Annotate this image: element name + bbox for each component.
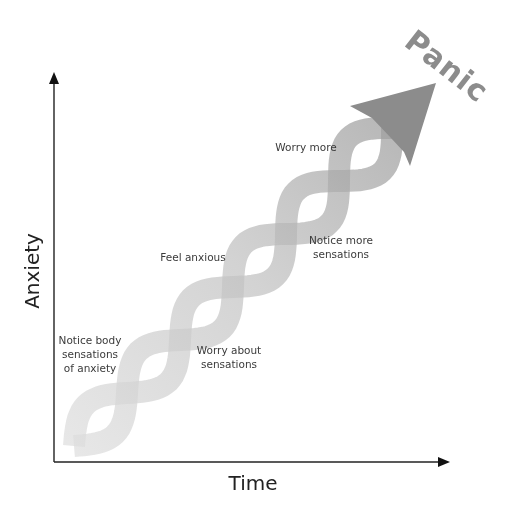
label-line: sensations — [59, 347, 122, 361]
y-axis-title: Anxiety — [20, 233, 44, 309]
label-line: Worry more — [275, 140, 336, 154]
label-line: sensations — [309, 247, 373, 261]
label-line: Notice more — [309, 233, 373, 247]
helix-strand-2 — [74, 128, 392, 446]
x-axis-arrow-icon — [438, 457, 450, 467]
y-axis-arrow-icon — [49, 72, 59, 84]
label-line: of anxiety — [59, 361, 122, 375]
label-feel-anxious: Feel anxious — [160, 250, 225, 264]
label-line: sensations — [197, 357, 262, 371]
label-line: Feel anxious — [160, 250, 225, 264]
label-notice-more: Notice more sensations — [309, 233, 373, 261]
label-notice-body: Notice body sensations of anxiety — [59, 333, 122, 375]
label-line: Worry about — [197, 343, 262, 357]
x-axis-title: Time — [229, 471, 278, 495]
label-line: Notice body — [59, 333, 122, 347]
label-worry-about: Worry about sensations — [197, 343, 262, 371]
helix-strands — [74, 128, 392, 446]
label-worry-more: Worry more — [275, 140, 336, 154]
